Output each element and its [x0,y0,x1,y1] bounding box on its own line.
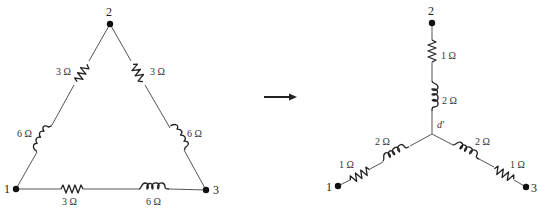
wye-node-1 [335,183,341,189]
delta-23-resistor-label: 3 Ω [150,66,165,77]
delta-12-inductor-label: 6 Ω [17,128,32,139]
wye-1-resistor-label: 1 Ω [339,159,354,170]
wye-3-resistor-label: 1 Ω [510,159,525,170]
resistor-icon [428,40,436,62]
wye-network: 1 2 3 d' 1 Ω 2 Ω 2 Ω 1 Ω 2 Ω 1 Ω [326,4,537,195]
delta-node-1-label: 1 [4,182,10,196]
inductor-icon [31,122,52,152]
delta-node-2 [107,21,113,27]
resistor-icon [130,62,147,83]
wye-center-label: d' [437,119,445,130]
delta-12-resistor-label: 3 Ω [56,66,71,77]
inductor-icon [139,183,169,189]
resistor-icon [74,62,91,83]
wye-arm-2 [428,23,438,134]
inductor-icon [432,81,438,111]
delta-node-1 [13,186,19,192]
delta-to-wye-diagram: 1 2 3 3 Ω 6 Ω 3 Ω 6 Ω 3 Ω 6 Ω [0,0,538,219]
wye-1-inductor-label: 2 Ω [375,136,390,147]
wye-node-3-label: 3 [531,181,537,195]
delta-13-resistor-label: 3 Ω [62,196,77,207]
resistor-icon [61,185,83,193]
wye-node-1-label: 1 [326,180,332,194]
wye-node-3 [523,184,529,190]
wye-3-inductor-label: 2 Ω [475,136,490,147]
delta-node-3-label: 3 [213,183,219,197]
delta-network: 1 2 3 3 Ω 6 Ω 3 Ω 6 Ω 3 Ω 6 Ω [4,5,219,207]
delta-side-1-2 [16,24,110,189]
delta-node-2-label: 2 [106,5,112,19]
delta-13-inductor-label: 6 Ω [146,196,161,207]
wye-2-inductor-label: 2 Ω [442,95,457,106]
delta-side-1-3 [16,183,206,193]
wye-node-2-label: 2 [428,4,434,18]
wye-node-2 [429,20,435,26]
delta-23-inductor-label: 6 Ω [187,128,202,139]
delta-node-3 [203,187,209,193]
wye-2-resistor-label: 1 Ω [441,50,456,61]
delta-side-2-3 [110,24,206,190]
arrow-right-icon [264,94,297,101]
